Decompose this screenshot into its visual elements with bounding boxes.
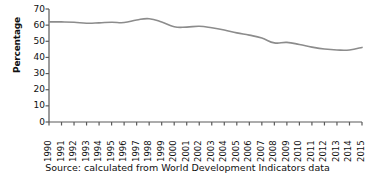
plot-area (49, 9, 362, 122)
x-tick-label: 2013 (332, 140, 341, 162)
y-tick-label: 20 (25, 85, 45, 94)
y-tick-label: 40 (25, 53, 45, 62)
x-tick-label: 2004 (219, 140, 228, 162)
x-tick-label: 2005 (232, 140, 241, 162)
x-tick-label: 1994 (94, 140, 103, 162)
x-tick-label: 2008 (269, 140, 278, 162)
x-tick-label: 1999 (157, 140, 166, 162)
data-series-line (49, 19, 362, 51)
y-tick-label: 60 (25, 21, 45, 30)
x-axis-tick-labels: 1990199119921993199419951996199719981999… (49, 124, 362, 162)
x-tick-label: 1991 (57, 140, 66, 162)
y-tick-label: 30 (25, 69, 45, 78)
x-tick-label: 2009 (282, 140, 291, 162)
x-tick-label: 1996 (119, 140, 128, 162)
x-tick-label: 2001 (182, 140, 191, 162)
x-tick-label: 2007 (257, 140, 266, 162)
chart-figure: Percentage 010203040506070 1990199119921… (0, 0, 375, 178)
line-chart-svg (49, 9, 362, 122)
x-tick-label: 1997 (132, 140, 141, 162)
x-tick-label: 1993 (82, 140, 91, 162)
x-tick-label: 2002 (194, 140, 203, 162)
source-caption: Source: calculated from World Developmen… (0, 162, 375, 173)
x-tick-label: 2014 (344, 140, 353, 162)
x-tick-label: 1995 (107, 140, 116, 162)
x-tick-label: 2010 (294, 140, 303, 162)
axis-lines (49, 9, 362, 122)
x-tick-label: 1992 (69, 140, 78, 162)
x-tick-label: 1998 (144, 140, 153, 162)
y-tick-label: 10 (25, 101, 45, 110)
y-tick-label: 50 (25, 37, 45, 46)
x-tick-label: 2003 (207, 140, 216, 162)
x-tick-label: 1990 (44, 140, 53, 162)
y-tick-label: 0 (25, 118, 45, 127)
x-tick-label: 2012 (319, 140, 328, 162)
y-axis-tick-labels: 010203040506070 (23, 9, 45, 122)
x-tick-label: 2011 (307, 140, 316, 162)
x-tick-label: 2015 (357, 140, 366, 162)
y-axis-title: Percentage (12, 2, 22, 88)
x-tick-label: 2006 (244, 140, 253, 162)
y-tick-label: 70 (25, 5, 45, 14)
x-tick-label: 2000 (169, 140, 178, 162)
